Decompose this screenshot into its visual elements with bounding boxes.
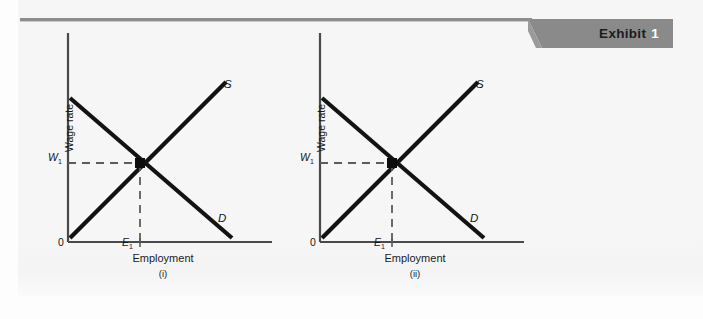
supply-curve-label-ii: S <box>476 78 484 90</box>
supply-demand-chart-ii: Wage rate W1 0 E1 S D Employment (ii) <box>288 26 548 288</box>
demand-curve <box>322 98 484 238</box>
panel-number-i: (i) <box>88 268 238 279</box>
exhibit-number: 1 <box>651 26 659 41</box>
y-axis-label-i: Wage rate <box>63 83 75 173</box>
header-rule-shadow <box>20 21 532 22</box>
demand-curve-label-i: D <box>218 212 226 224</box>
chart-i-graphics <box>36 26 296 288</box>
x-axis-label-ii: Employment <box>340 252 490 264</box>
wage-tick-label-i: W1 <box>48 151 62 165</box>
origin-label-ii: 0 <box>310 236 316 248</box>
supply-curve-label-i: S <box>224 78 232 90</box>
equilibrium-marker <box>387 158 397 168</box>
origin-label-i: 0 <box>58 236 64 248</box>
demand-curve <box>70 98 232 238</box>
equilibrium-marker <box>135 158 145 168</box>
employment-tick-label-i: E1 <box>122 236 133 250</box>
scanned-page: Exhibit 1 Wage rate W1 0 E1 <box>0 0 703 319</box>
y-axis-label-ii: Wage rate <box>315 83 327 173</box>
panel-number-ii: (ii) <box>340 268 490 279</box>
supply-demand-chart-i: Wage rate W1 0 E1 S D Employment (i) <box>36 26 296 288</box>
chart-ii-graphics <box>288 26 548 288</box>
employment-tick-label-ii: E1 <box>374 236 385 250</box>
x-axis-label-i: Employment <box>88 252 238 264</box>
exhibit-ribbon: Exhibit 1 <box>528 19 673 48</box>
wage-tick-label-ii: W1 <box>300 151 314 165</box>
demand-curve-label-ii: D <box>470 212 478 224</box>
exhibit-word: Exhibit <box>599 26 646 41</box>
exhibit-ribbon-label: Exhibit 1 <box>528 19 673 48</box>
